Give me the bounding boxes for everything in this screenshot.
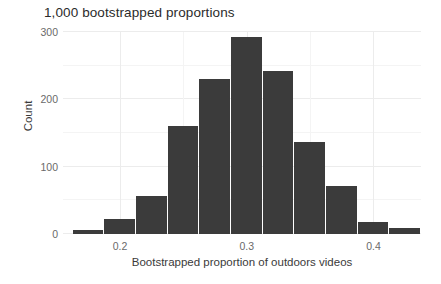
histogram-bar	[199, 79, 230, 234]
histogram-bar	[294, 142, 325, 234]
chart-title: 1,000 bootstrapped proportions	[44, 5, 235, 20]
y-tick-label: 0	[18, 228, 58, 240]
histogram-chart: 1,000 bootstrapped proportions 010020030…	[0, 0, 441, 284]
x-tick-label: 0.4	[366, 240, 381, 252]
x-axis-line	[63, 234, 421, 235]
bars-layer	[63, 32, 421, 234]
y-axis-title: Count	[22, 76, 34, 156]
histogram-bar	[326, 186, 357, 234]
histogram-bar	[168, 126, 199, 234]
y-tick-label: 300	[18, 26, 58, 38]
x-axis-ticks: 0.20.30.4	[63, 240, 421, 254]
y-tick-label: 100	[18, 161, 58, 173]
histogram-bar	[136, 196, 167, 234]
histogram-bar	[104, 219, 135, 234]
x-axis-title: Bootstrapped proportion of outdoors vide…	[63, 256, 421, 268]
y-axis-ticks: 0100200300	[14, 32, 58, 234]
x-tick-label: 0.3	[239, 240, 254, 252]
x-tick-label: 0.2	[113, 240, 128, 252]
plot-area	[63, 32, 421, 234]
histogram-bar	[358, 222, 389, 234]
histogram-bar	[231, 37, 262, 234]
histogram-bar	[263, 71, 294, 234]
